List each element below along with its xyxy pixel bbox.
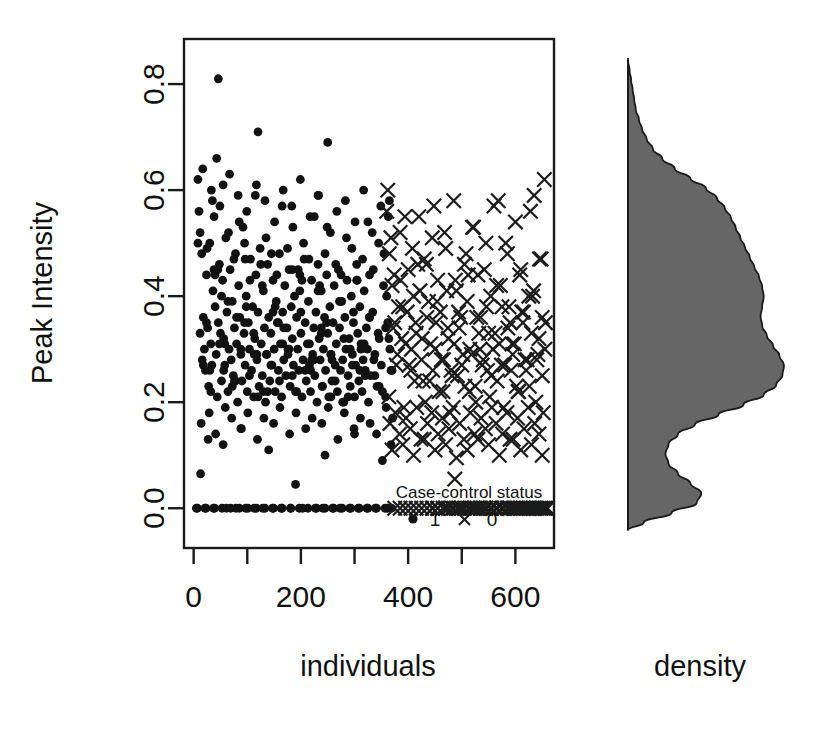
y-tick-label: 0.2 <box>137 381 170 423</box>
data-point-case <box>371 504 380 513</box>
data-point-case <box>314 260 323 269</box>
data-point-case <box>203 244 212 253</box>
data-point-case <box>362 504 371 513</box>
data-point-case <box>288 265 297 274</box>
data-point-case <box>217 377 226 386</box>
data-point-control <box>438 241 452 255</box>
data-point-case <box>252 180 261 189</box>
data-point-case <box>365 313 374 322</box>
data-point-case <box>366 419 375 428</box>
data-point-control <box>448 273 462 287</box>
data-point-case <box>277 504 286 513</box>
data-point-case <box>349 308 358 317</box>
data-point-case <box>208 196 217 205</box>
y-tick-label: 0.8 <box>137 63 170 105</box>
data-point-case <box>331 377 340 386</box>
series-case-points <box>192 74 397 512</box>
data-point-control <box>479 236 493 250</box>
data-point-control <box>490 374 504 388</box>
data-point-case <box>214 74 223 83</box>
data-point-control <box>440 284 454 298</box>
density-area-path <box>628 60 784 530</box>
data-point-control <box>400 305 414 319</box>
data-point-case <box>230 324 239 333</box>
data-point-case <box>335 324 344 333</box>
data-point-case <box>266 329 275 338</box>
data-point-control <box>537 172 551 186</box>
data-point-case <box>340 313 349 322</box>
data-point-case <box>224 228 233 237</box>
data-point-control <box>447 337 461 351</box>
data-point-case <box>256 244 265 253</box>
x-axis-ticks <box>194 548 516 564</box>
data-point-case <box>219 180 228 189</box>
data-point-case <box>227 414 236 423</box>
legend-title: Case-control status <box>396 483 542 502</box>
data-point-control <box>451 305 465 319</box>
data-point-case <box>301 366 310 375</box>
data-point-case <box>257 339 266 348</box>
data-point-case <box>222 504 231 513</box>
data-point-case <box>311 504 320 513</box>
data-point-case <box>344 371 353 380</box>
data-point-case <box>266 361 275 370</box>
data-point-case <box>338 355 347 364</box>
data-point-case <box>254 308 263 317</box>
data-point-case <box>253 435 262 444</box>
data-point-control <box>427 199 441 213</box>
data-point-case <box>198 355 207 364</box>
data-point-case <box>347 292 356 301</box>
data-point-case <box>301 318 310 327</box>
data-point-case <box>263 387 272 396</box>
data-point-case <box>267 249 276 258</box>
data-point-case <box>258 281 267 290</box>
data-point-case <box>277 392 286 401</box>
data-point-control <box>398 209 412 223</box>
data-point-case <box>372 430 381 439</box>
data-point-case <box>202 271 211 280</box>
data-point-control <box>460 294 474 308</box>
data-point-case <box>351 218 360 227</box>
data-point-case <box>330 281 339 290</box>
data-point-case <box>327 350 336 359</box>
data-point-case <box>210 504 219 513</box>
data-point-case <box>219 440 228 449</box>
data-point-control <box>459 247 473 261</box>
legend-label-case: 1 <box>430 509 441 530</box>
x-tick-label: 400 <box>383 580 433 613</box>
y-tick-label: 0.6 <box>137 169 170 211</box>
data-point-case <box>319 345 328 354</box>
data-point-case <box>275 377 284 386</box>
data-point-case <box>256 260 265 269</box>
data-point-control <box>502 300 516 314</box>
data-point-case <box>327 392 336 401</box>
data-point-case <box>321 366 330 375</box>
data-point-case <box>292 408 301 417</box>
x-tick-label: 600 <box>490 580 540 613</box>
data-point-case <box>317 329 326 338</box>
data-point-case <box>332 339 341 348</box>
data-point-case <box>288 334 297 343</box>
data-point-control <box>447 194 461 208</box>
data-point-case <box>323 223 332 232</box>
data-point-case <box>219 366 228 375</box>
y-tick-label: 0.4 <box>137 275 170 317</box>
data-point-case <box>358 255 367 264</box>
data-point-case <box>207 186 216 195</box>
data-point-case <box>264 446 273 455</box>
y-axis-tick-labels: 0.00.20.40.60.8 <box>137 63 170 529</box>
data-point-case <box>262 350 271 359</box>
data-point-control <box>414 432 428 446</box>
data-point-case <box>194 239 203 248</box>
data-point-case <box>298 276 307 285</box>
data-point-control <box>499 236 513 250</box>
scatter-panel-border <box>184 39 554 548</box>
data-point-case <box>318 382 327 391</box>
data-point-case <box>211 430 220 439</box>
data-point-case <box>346 345 355 354</box>
data-point-case <box>339 334 348 343</box>
data-point-control <box>523 204 537 218</box>
data-point-case <box>195 207 204 216</box>
data-point-case <box>210 212 219 221</box>
data-point-case <box>347 244 356 253</box>
